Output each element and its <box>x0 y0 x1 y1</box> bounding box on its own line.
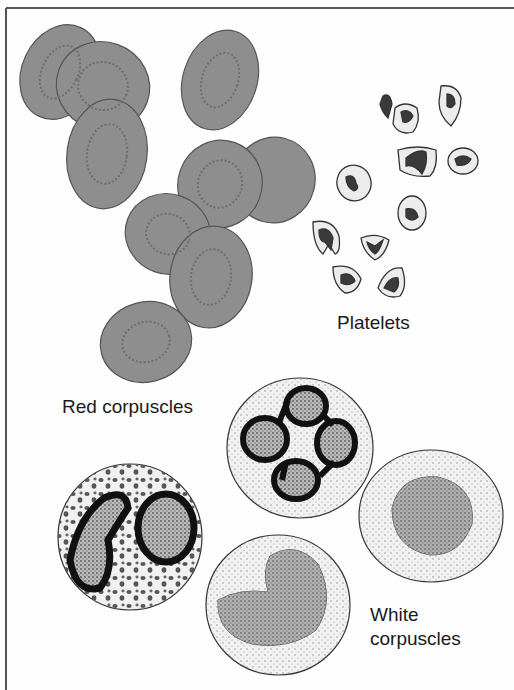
lymphocyte <box>359 450 503 582</box>
label-red-corpuscles: Red corpuscles <box>62 396 193 418</box>
platelets <box>313 86 478 297</box>
neutrophil <box>227 378 373 518</box>
label-white-corpuscles-line2: corpuscles <box>370 628 461 650</box>
label-platelets: Platelets <box>337 312 410 334</box>
red-corpuscles <box>5 12 325 393</box>
monocyte <box>206 535 350 675</box>
eosinophil <box>58 464 202 610</box>
label-white-corpuscles-line1: White <box>370 604 419 626</box>
blood-cells-illustration <box>0 0 514 690</box>
